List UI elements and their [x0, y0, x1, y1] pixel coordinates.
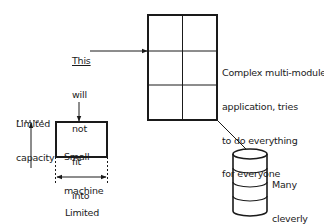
label-line: capacity	[16, 152, 55, 163]
complex-application-box	[148, 15, 217, 120]
data-files-label: Many cleverly linked data files	[272, 157, 308, 224]
label-line: Many	[272, 179, 308, 190]
mismatch-line: This	[72, 55, 91, 66]
limited-function-label: Limited function	[65, 185, 102, 224]
mismatch-line: will	[72, 89, 91, 100]
label-line: Small	[64, 151, 103, 162]
limited-capacity-label: Limited capacity	[16, 96, 55, 174]
label-line: Complex multi-module	[222, 67, 324, 78]
label-line: to do everything	[222, 135, 324, 146]
label-line: Limited	[65, 207, 102, 218]
label-line: Limited	[16, 118, 55, 129]
label-line: cleverly	[272, 213, 308, 224]
label-line: application, tries	[222, 101, 324, 112]
